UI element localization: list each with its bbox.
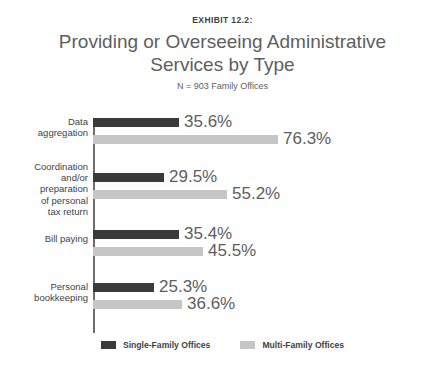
bar-multi-family <box>93 300 182 309</box>
bar-single-family <box>93 230 179 239</box>
legend-item-multi-family: Multi-Family Offices <box>240 340 344 350</box>
bar-single-family <box>93 173 164 182</box>
legend-label: Single-Family Offices <box>123 340 210 350</box>
chart-subtitle: N = 903 Family Offices <box>0 81 445 91</box>
category-label-tax-return: Coordination and/or preparation of perso… <box>0 161 88 217</box>
bar-value-single-family: 35.6% <box>184 112 232 132</box>
bar-value-multi-family: 55.2% <box>232 184 280 204</box>
legend-swatch-icon <box>101 341 116 349</box>
bar-multi-family <box>93 247 203 256</box>
exhibit-label: EXHIBIT 12.2: <box>0 15 445 25</box>
bar-value-single-family: 29.5% <box>169 167 217 187</box>
bar-single-family <box>93 118 179 127</box>
chart-title: Providing or Overseeing Administrative S… <box>0 30 445 76</box>
legend-item-single-family: Single-Family Offices <box>101 340 210 350</box>
bar-value-multi-family: 45.5% <box>208 241 256 261</box>
category-label-bill-paying: Bill paying <box>0 233 88 244</box>
legend-swatch-icon <box>240 341 255 349</box>
legend-label: Multi-Family Offices <box>262 340 344 350</box>
bar-multi-family <box>93 190 227 199</box>
chart-legend: Single-Family Offices Multi-Family Offic… <box>0 340 445 350</box>
category-label-personal-bookkeeping: Personal bookkeeping <box>0 281 88 303</box>
category-label-data-aggregation: Data aggregation <box>0 116 88 138</box>
chart-container: EXHIBIT 12.2: Providing or Overseeing Ad… <box>0 0 445 371</box>
plot-area: Data aggregation 35.6% 76.3% Coordinatio… <box>0 110 445 335</box>
bar-multi-family <box>93 135 278 144</box>
bar-value-multi-family: 76.3% <box>283 129 331 149</box>
bar-single-family <box>93 283 154 292</box>
bar-value-multi-family: 36.6% <box>187 294 235 314</box>
